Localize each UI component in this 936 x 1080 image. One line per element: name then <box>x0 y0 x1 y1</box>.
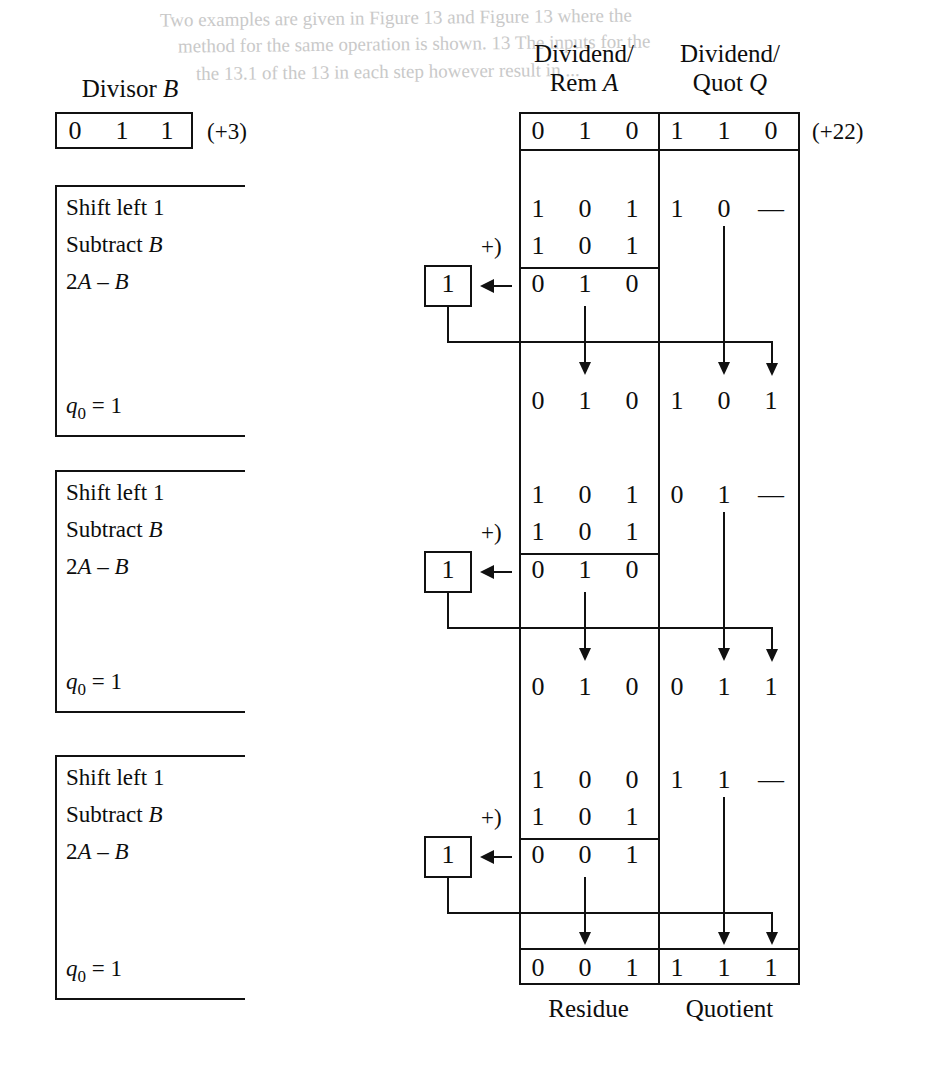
step-2-next-a-2: 0 <box>615 674 649 700</box>
step-3-result: q0 = 1 <box>66 957 122 985</box>
initial-q-bit-0: 1 <box>660 118 694 144</box>
step-1-addend-1: 0 <box>568 233 602 259</box>
step-3-shifted-a-2: 0 <box>615 767 649 793</box>
step-1-sum-a-1: 1 <box>568 271 602 297</box>
step-1-result-sub: 0 <box>78 404 87 423</box>
header-q-line2: Quot Q <box>655 69 805 98</box>
step-1-shifted-a-2: 1 <box>615 196 649 222</box>
step-3-q-shift-arrow-shaft <box>723 797 725 935</box>
header-q-line1: Dividend/ <box>655 40 805 69</box>
header-a-line2: Rem A <box>509 69 659 98</box>
table-column-divider <box>658 112 660 985</box>
step-1-op-line3: 2A – B <box>66 270 129 293</box>
step-3-op-line3-b: B <box>115 839 129 864</box>
division-figure: Two examples are given in Figure 13 and … <box>0 0 936 1080</box>
header-a-letter: A <box>603 69 618 96</box>
step-1-shifted-a-0: 1 <box>521 196 555 222</box>
step-1-q-shift-arrowhead <box>718 362 730 375</box>
step-2-sum-a-0: 0 <box>521 557 555 583</box>
step-2-op-line3-minus: – <box>97 554 109 579</box>
step-2-q-shift-arrow-shaft <box>723 512 725 652</box>
step-2-a-carry-arrow-shaft <box>584 592 586 652</box>
step-1-sum-a-0: 0 <box>521 271 555 297</box>
step-3-add-marker: +) <box>481 806 502 829</box>
step-3-addend-1: 0 <box>568 804 602 830</box>
step-2-carry-bit: 1 <box>431 557 465 583</box>
initial-a-bit-0: 0 <box>521 118 555 144</box>
initial-q-bit-2: 0 <box>754 118 788 144</box>
step-2-feedback-wire-vertical-left <box>447 593 449 629</box>
step-2-op-line3: 2A – B <box>66 555 129 578</box>
step-2-q-shift-arrowhead <box>718 648 730 661</box>
step-2-shifted-q-2: — <box>754 482 788 508</box>
step-2-result-label: q <box>66 669 78 694</box>
initial-row-bottom-rule <box>519 149 800 151</box>
step-2-result-eq: = 1 <box>92 669 122 694</box>
divisor-bit-0: 0 <box>58 118 92 144</box>
step-3-op-line3-two: 2 <box>66 839 78 864</box>
step-1-carry-bit: 1 <box>431 271 465 297</box>
step-3-op-line3-a: A <box>78 839 92 864</box>
step-2-next-q-0: 0 <box>660 674 694 700</box>
step-2-shifted-a-0: 1 <box>521 482 555 508</box>
step-2-op-line3-a: A <box>78 554 92 579</box>
step-3-result-eq: = 1 <box>92 956 122 981</box>
step-3-shifted-q-2: — <box>754 767 788 793</box>
step-1-next-a-2: 0 <box>615 388 649 414</box>
final-q-bit-2: 1 <box>754 955 788 981</box>
step-1-op-line2-word: Subtract <box>66 232 143 257</box>
table-border-top <box>519 112 800 114</box>
step-3-a-carry-arrow-shaft <box>584 877 586 935</box>
step-1-carry-arrow-left <box>480 279 512 293</box>
step-2-a-carry-arrowhead <box>579 648 591 661</box>
step-2-carry-arrow-left <box>480 565 512 579</box>
step-2-shifted-q-1: 1 <box>707 482 741 508</box>
step-1-op-line3-a: A <box>78 269 92 294</box>
footer-quotient-label: Quotient <box>660 996 799 1021</box>
step-1-a-carry-arrowhead <box>579 362 591 375</box>
initial-a-bit-2: 0 <box>615 118 649 144</box>
step-1-next-q-1: 0 <box>707 388 741 414</box>
step-3-feedback-wire-vertical-left <box>447 878 449 914</box>
step-2-shifted-a-1: 0 <box>568 482 602 508</box>
step-2-next-a-0: 0 <box>521 674 555 700</box>
step-3-a-carry-arrowhead <box>579 932 591 945</box>
step-3-op-line1: Shift left 1 <box>66 766 164 789</box>
header-a-word: Rem <box>550 69 597 96</box>
step-2-sum-a-1: 1 <box>568 557 602 583</box>
header-q-word: Quot <box>693 69 743 96</box>
divisor-caption-letter: B <box>163 75 178 102</box>
step-1-result: q0 = 1 <box>66 394 122 422</box>
step-3-carry-bit: 1 <box>431 842 465 868</box>
step-1-a-carry-arrow-shaft <box>584 306 586 366</box>
step-3-feedback-arrowhead <box>766 932 778 945</box>
step-2-op-line1: Shift left 1 <box>66 481 164 504</box>
final-a-bit-2: 1 <box>615 955 649 981</box>
step-1-op-line3-minus: – <box>97 269 109 294</box>
step-3-shifted-a-1: 0 <box>568 767 602 793</box>
step-1-q-shift-arrow-shaft <box>723 226 725 366</box>
step-2-sum-a-2: 0 <box>615 557 649 583</box>
step-2-op-line2-letter: B <box>148 517 162 542</box>
divisor-bit-2: 1 <box>150 118 184 144</box>
step-1-next-q-0: 1 <box>660 388 694 414</box>
step-3-shifted-q-0: 1 <box>660 767 694 793</box>
step-3-sum-a-2: 1 <box>615 842 649 868</box>
step-1-op-line2: Subtract B <box>66 233 162 256</box>
final-row-top-rule <box>519 948 800 950</box>
final-a-bit-0: 0 <box>521 955 555 981</box>
final-a-bit-1: 0 <box>568 955 602 981</box>
step-1-addend-0: 1 <box>521 233 555 259</box>
step-3-result-sub: 0 <box>78 967 87 986</box>
header-dividend-rem-a: Dividend/ Rem A <box>509 40 659 98</box>
step-1-shifted-a-1: 0 <box>568 196 602 222</box>
step-2-next-q-1: 1 <box>707 674 741 700</box>
step-2-next-a-1: 1 <box>568 674 602 700</box>
step-1-next-a-1: 1 <box>568 388 602 414</box>
step-3-op-line2: Subtract B <box>66 803 162 826</box>
step-1-next-q-2: 1 <box>754 388 788 414</box>
step-1-op-line3-b: B <box>115 269 129 294</box>
step-2-result: q0 = 1 <box>66 670 122 698</box>
step-3-shifted-q-1: 1 <box>707 767 741 793</box>
header-q-letter: Q <box>749 69 767 96</box>
